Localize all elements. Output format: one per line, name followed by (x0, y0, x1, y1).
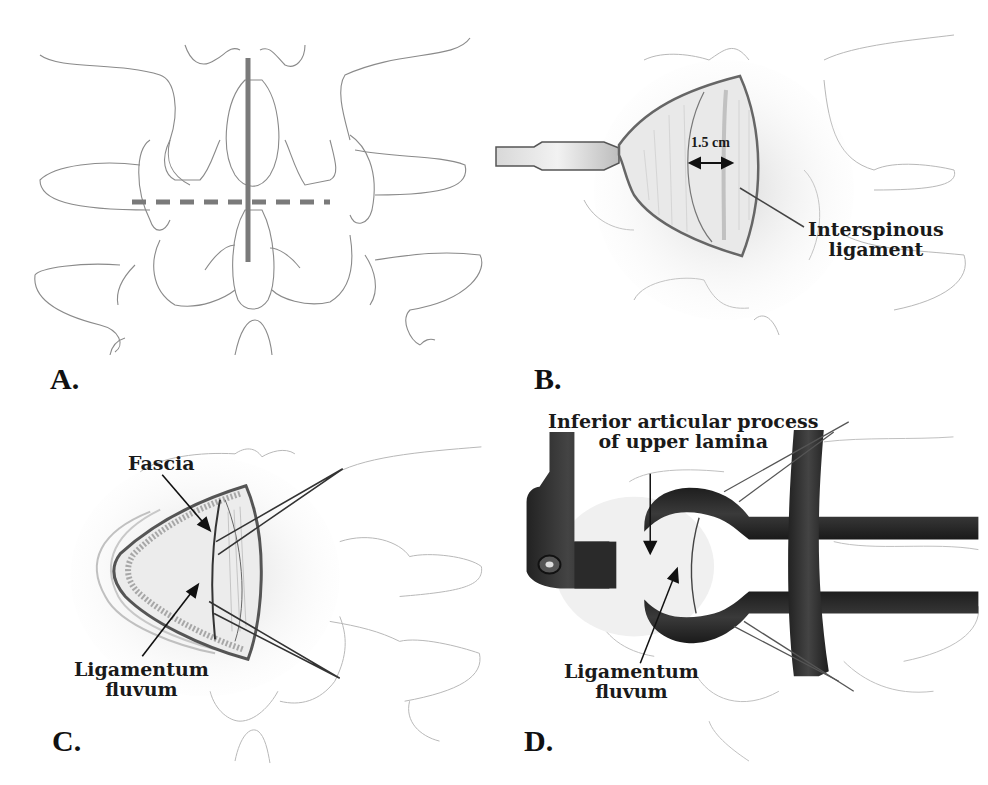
measurement-label: 1.5 cm (691, 136, 730, 151)
vertical-strap (788, 430, 829, 676)
vertebrae-illustration-a (0, 0, 494, 392)
panel-a: A. (0, 0, 494, 392)
ligamentum-flavum-label-d: Ligamentum fluvum (564, 662, 699, 702)
panel-c: Fascia Ligamentum fluvum C. (0, 392, 494, 784)
fascia-label: Fascia (128, 454, 195, 474)
panel-letter-b: B. (534, 362, 562, 396)
interspinous-ligament-label: Interspinous ligament (808, 220, 944, 260)
inferior-articular-process-label: Inferior articular process of upper lami… (548, 412, 818, 452)
ligamentum-flavum-label-c: Ligamentum fluvum (74, 660, 209, 700)
panel-letter-a: A. (50, 362, 79, 396)
panel-letter-c: C. (52, 724, 81, 758)
retractor-illustration-b (494, 0, 988, 392)
retractor-handle (496, 142, 619, 170)
panel-d: Inferior articular process of upper lami… (494, 392, 988, 784)
panel-letter-d: D. (524, 724, 553, 758)
panel-b: 1.5 cm Interspinous ligament B. (494, 0, 988, 392)
